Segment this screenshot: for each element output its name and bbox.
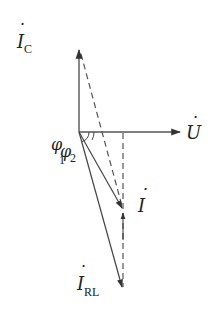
angle-arc-phi2 (92, 132, 94, 140)
label-phi1: φ (51, 135, 63, 154)
phasor-diagram: · I C · U φ 2 φ 1 · I · I RL (0, 0, 212, 320)
label-phi1-sub: 1 (59, 153, 65, 167)
label-u: U (186, 122, 202, 143)
label-i: I (137, 195, 146, 216)
label-irl-sub: RL (84, 285, 99, 299)
label-ic-sub: C (24, 42, 32, 56)
phasor-i-arrow (79, 132, 122, 208)
label-phi2-sub: 2 (70, 151, 76, 165)
dashed-ic-to-i-line (81, 54, 122, 206)
